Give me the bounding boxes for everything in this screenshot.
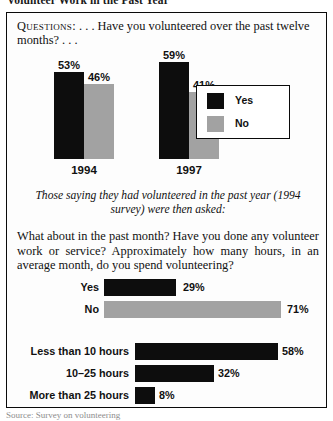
hbar-row-10-25: 10–25 hours 32% (7, 365, 327, 382)
bar-value-1994-no: 46% (76, 71, 122, 83)
legend-swatch-yes-icon (207, 93, 224, 109)
hbar-fill-no (104, 301, 281, 318)
hbar-row-less-than-10: Less than 10 hours 58% (7, 343, 327, 360)
chart-legend: Yes No (196, 85, 290, 139)
bar-1994-no: 46% (84, 84, 114, 159)
hbar-label-no: No (7, 303, 99, 315)
hbar-value-no: 71% (287, 303, 309, 315)
bar-value-1997-yes: 59% (151, 49, 197, 61)
bar-value-1994-yes: 53% (46, 59, 92, 71)
transition-note: Those saying they had volunteered in the… (29, 189, 307, 216)
hbar-label-less-than-10: Less than 10 hours (7, 345, 129, 357)
hbar-fill-more-than-25 (135, 387, 155, 404)
source-caption: Source: Survey on volunteering (6, 410, 326, 421)
hbar-value-less-than-10: 58% (282, 345, 304, 357)
bar-1994-yes: 53% (54, 72, 84, 159)
followup-question: What about in the past month? Have you d… (17, 229, 319, 273)
past-month-bar-chart: Yes 29% No 71% (7, 279, 327, 325)
figure-panel: Questions: . . . Have you volunteered ov… (6, 12, 327, 408)
grouped-bar-chart: 53% 46% 1994 59% 41% 1997 Yes No (7, 61, 327, 181)
hbar-label-10-25: 10–25 hours (7, 367, 129, 379)
legend-swatch-no-icon (207, 116, 224, 132)
hbar-fill-less-than-10 (135, 343, 278, 360)
hours-bar-chart: Less than 10 hours 58% 10–25 hours 32% M… (7, 343, 327, 401)
hbar-value-more-than-25: 8% (159, 389, 175, 401)
axis-label-1994: 1994 (54, 164, 114, 176)
hbar-label-more-than-25: More than 25 hours (7, 389, 129, 401)
legend-label-no: No (235, 117, 249, 129)
hbar-value-yes: 29% (183, 281, 205, 293)
hbar-fill-yes (104, 279, 176, 296)
hbar-row-yes: Yes 29% (7, 279, 327, 297)
hbar-row-more-than-25: More than 25 hours 8% (7, 387, 327, 404)
bar-1997-yes: 59% (159, 62, 189, 159)
hbar-label-yes: Yes (7, 281, 99, 293)
hbar-fill-10-25 (135, 365, 214, 382)
questions-block: Questions: . . . Have you volunteered ov… (17, 19, 315, 48)
figure-title: Volunteer Work in the Past Year (7, 0, 307, 7)
axis-label-1997: 1997 (159, 164, 219, 176)
legend-label-yes: Yes (235, 94, 253, 106)
questions-label: Questions: (17, 19, 76, 33)
hbar-value-10-25: 32% (218, 367, 240, 379)
hbar-row-no: No 71% (7, 301, 327, 319)
